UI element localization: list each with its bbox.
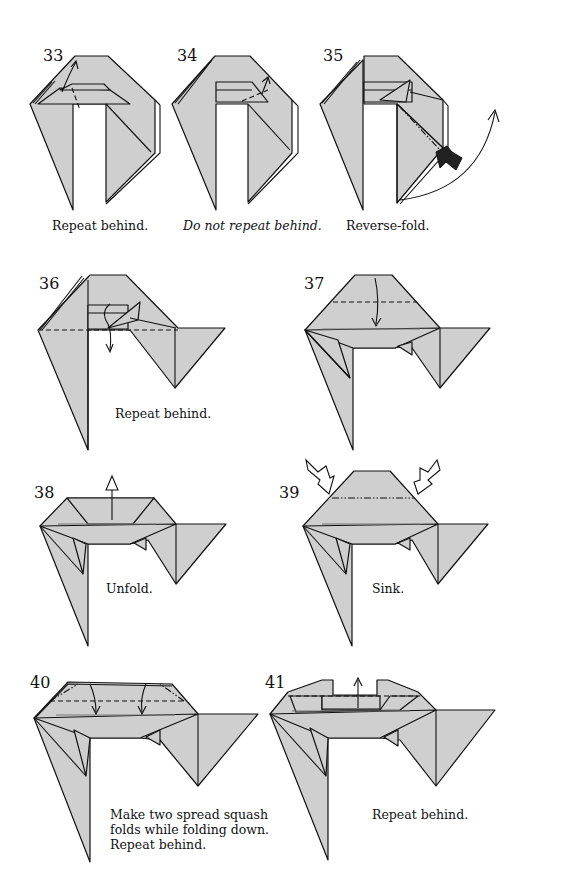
step-number: 39	[279, 483, 299, 502]
step-number: 36	[39, 274, 59, 293]
step-number: 35	[323, 46, 343, 65]
caption-line: Make two spread squash	[110, 807, 269, 822]
step-41: 41 Repeat behind.	[0, 640, 575, 891]
step-caption: Sink.	[372, 581, 404, 596]
step-37: 37	[0, 250, 575, 460]
step-40-diagram	[0, 640, 575, 891]
caption-line: folds while folding down.	[110, 822, 269, 837]
step-caption: Make two spread squash folds while foldi…	[110, 807, 269, 852]
step-33-diagram	[0, 0, 190, 250]
step-39: 39 Sink.	[0, 450, 575, 650]
step-38: 38 Unfold.	[0, 450, 575, 650]
step-number: 37	[304, 274, 324, 293]
step-caption: Repeat behind.	[115, 406, 211, 421]
step-39-diagram	[0, 450, 575, 650]
caption-line: Repeat behind.	[110, 837, 269, 852]
step-40: 40 Make two spread squash folds while fo…	[0, 640, 575, 891]
step-number: 38	[34, 483, 54, 502]
step-caption: Unfold.	[106, 581, 153, 596]
step-caption: Do not repeat behind.	[183, 218, 322, 233]
step-41-diagram	[0, 640, 575, 891]
step-37-diagram	[0, 250, 575, 460]
step-36-diagram	[0, 250, 575, 460]
step-38-diagram	[0, 450, 575, 650]
step-caption: Reverse-fold.	[346, 218, 429, 233]
step-33: 33 Repeat behind.	[0, 0, 190, 250]
step-number: 40	[30, 673, 50, 692]
step-caption: Repeat behind.	[52, 218, 148, 233]
step-number: 41	[265, 673, 285, 692]
step-36: 36 Repeat behind.	[0, 250, 575, 460]
step-caption: Repeat behind.	[372, 807, 468, 822]
